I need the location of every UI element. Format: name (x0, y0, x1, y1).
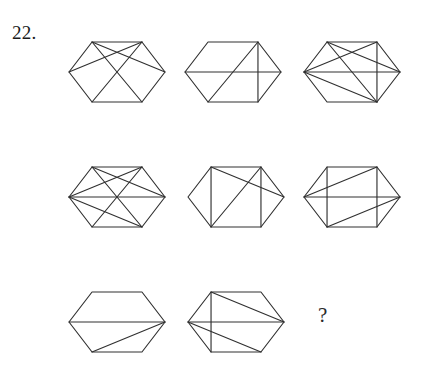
cell-r2c1 (66, 144, 168, 250)
cell-r3c1 (66, 269, 168, 375)
cell-r2c3 (301, 144, 403, 250)
cell-r2c2 (185, 144, 287, 250)
cell-r1c2 (182, 19, 284, 125)
cell-r1c1 (66, 19, 168, 125)
item-number-label: 22. (12, 22, 36, 44)
cell-r1c3 (301, 19, 403, 125)
cell-r3c3-answer (301, 269, 403, 375)
cell-r3c2 (185, 269, 287, 375)
hexagon-chord-4 (211, 167, 261, 227)
puzzle-canvas: 22. ? (0, 0, 426, 392)
